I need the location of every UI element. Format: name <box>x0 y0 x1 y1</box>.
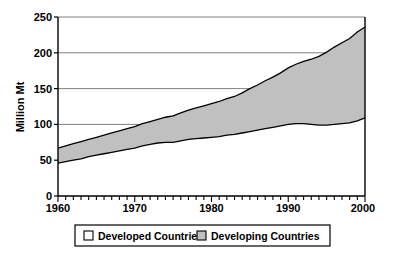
legend-swatch-developing <box>197 231 206 240</box>
x-tick-label-1990: 1990 <box>276 202 300 214</box>
chart-figure: 250 200 150 100 50 0 1960 1970 1980 1990… <box>0 0 393 257</box>
y-tick-label-0: 0 <box>46 190 52 202</box>
y-tick-label-250: 250 <box>34 11 52 23</box>
y-tick-label-150: 150 <box>34 83 52 95</box>
x-tick-label-1960: 1960 <box>46 202 70 214</box>
x-tick-label-1980: 1980 <box>199 202 223 214</box>
legend-label-developed: Developed Countries <box>98 230 203 242</box>
x-tick-label-2000: 2000 <box>351 202 375 214</box>
legend-swatch-developed <box>84 231 93 240</box>
legend: Developed Countries Developing Countries <box>75 225 330 246</box>
y-tick-label-100: 100 <box>34 118 52 130</box>
legend-label-developing: Developing Countries <box>211 230 320 242</box>
x-tick-label-1970: 1970 <box>123 202 147 214</box>
y-tick-label-200: 200 <box>34 47 52 59</box>
y-axis-title: Million Mt <box>14 81 26 132</box>
area-chart: 250 200 150 100 50 0 1960 1970 1980 1990… <box>0 0 393 257</box>
y-tick-label-50: 50 <box>40 154 52 166</box>
